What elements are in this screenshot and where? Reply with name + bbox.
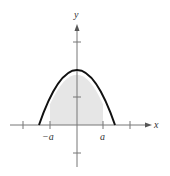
y-axis-label: y bbox=[73, 9, 79, 20]
x-axis-label: x bbox=[153, 119, 159, 130]
y-axis-arrow-icon bbox=[75, 24, 80, 31]
tick-label-pos-a: a bbox=[100, 131, 105, 142]
tick-label-neg-a: −a bbox=[42, 131, 54, 142]
x-axis-arrow-icon bbox=[145, 123, 152, 128]
parabola-diagram: y x −a a bbox=[0, 0, 170, 176]
